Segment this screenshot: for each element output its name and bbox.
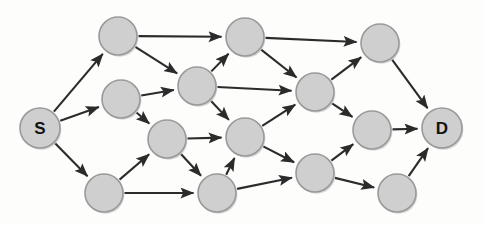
edge-H-to-K	[263, 146, 294, 162]
edge-I-to-K	[237, 178, 292, 189]
edge-K-to-M	[331, 144, 353, 161]
edge-F-to-H	[187, 138, 221, 139]
graph-node-s[interactable]: S	[20, 108, 61, 150]
graph-node-k[interactable]	[296, 154, 335, 194]
graph-node-a[interactable]	[99, 17, 138, 57]
graph-node-n[interactable]	[378, 174, 417, 214]
node-circle-n[interactable]	[378, 174, 416, 212]
graph-node-g[interactable]	[226, 18, 265, 58]
node-circle-b[interactable]	[102, 80, 140, 118]
edge-S-to-C	[55, 143, 87, 176]
graph-node-l[interactable]	[361, 24, 400, 64]
graph-node-d[interactable]: D	[422, 108, 463, 150]
edge-A-to-G	[139, 36, 222, 37]
node-label-d: D	[436, 119, 448, 138]
node-circle-i[interactable]	[198, 174, 236, 212]
node-circle-a[interactable]	[99, 17, 137, 55]
graph-node-h[interactable]	[226, 118, 265, 158]
edge-H-to-J	[262, 105, 295, 126]
graph-node-j[interactable]	[296, 73, 335, 113]
node-circle-k[interactable]	[296, 154, 334, 192]
graph-node-e[interactable]	[178, 67, 217, 107]
edge-L-to-D	[392, 60, 427, 109]
edge-G-to-J	[261, 50, 296, 78]
node-circle-f[interactable]	[148, 120, 186, 158]
edge-J-to-L	[331, 57, 361, 80]
edge-B-to-F	[136, 112, 149, 123]
edge-G-to-L	[265, 38, 356, 42]
node-circle-m[interactable]	[353, 111, 391, 149]
node-circle-h[interactable]	[226, 118, 264, 156]
graph-node-b[interactable]	[102, 80, 141, 120]
edge-K-to-N	[335, 178, 374, 188]
edge-E-to-H	[211, 101, 229, 120]
edge-S-to-A	[54, 54, 103, 112]
edge-S-to-B	[60, 107, 99, 121]
graph-node-c[interactable]	[85, 174, 124, 214]
node-circle-g[interactable]	[226, 18, 264, 56]
network-diagram-canvas: SD	[0, 0, 484, 225]
node-circle-c[interactable]	[85, 174, 123, 212]
graph-node-i[interactable]	[198, 174, 237, 214]
edge-E-to-G	[211, 54, 228, 72]
node-label-s: S	[34, 119, 45, 138]
edge-E-to-J	[217, 87, 291, 91]
edge-J-to-M	[332, 103, 352, 117]
graph-node-m[interactable]	[353, 111, 392, 151]
edge-B-to-E	[141, 90, 174, 96]
graph-node-f[interactable]	[148, 120, 187, 160]
edge-I-to-H	[226, 158, 234, 175]
nodes-layer: SD	[20, 17, 463, 214]
node-circle-j[interactable]	[296, 73, 334, 111]
edge-F-to-I	[181, 154, 201, 176]
network-diagram-svg: SD	[0, 0, 484, 225]
node-circle-l[interactable]	[361, 24, 399, 62]
edge-N-to-D	[409, 148, 428, 176]
edge-M-to-D	[392, 129, 417, 130]
node-circle-e[interactable]	[178, 67, 216, 105]
edge-A-to-E	[135, 47, 177, 73]
edge-C-to-F	[120, 154, 150, 179]
